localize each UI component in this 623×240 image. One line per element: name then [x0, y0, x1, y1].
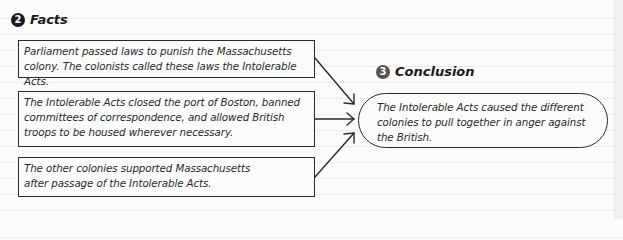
conclusion-line-1: The Intolerable Acts caused the differen…	[377, 100, 597, 115]
conclusion-box: The Intolerable Acts caused the differen…	[358, 93, 608, 148]
arrow-fact-1-icon	[315, 58, 354, 104]
conclusion-heading: 3 Conclusion	[376, 64, 475, 79]
conclusion-heading-label: Conclusion	[395, 64, 475, 79]
conclusion-line-3: the British.	[377, 130, 597, 145]
arrow-fact-2-icon	[315, 113, 354, 125]
arrow-fact-3-icon	[315, 133, 354, 177]
conclusion-line-2: colonies to pull together in anger again…	[377, 115, 597, 130]
step-3-badge-icon: 3	[376, 65, 390, 79]
